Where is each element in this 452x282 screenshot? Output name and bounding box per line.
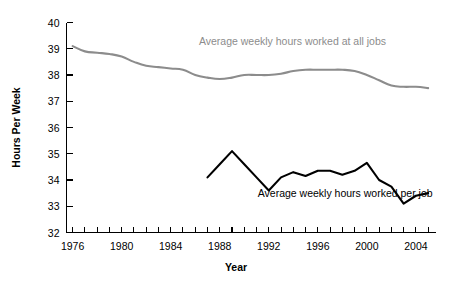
y-tick-label: 32 [48,227,60,239]
x-tick-label: 1996 [306,240,330,252]
x-tick-label: 1980 [110,240,134,252]
x-tick-label: 2004 [404,240,428,252]
series-label-all-jobs: Average weekly hours worked at all jobs [199,35,386,47]
y-axis-title: Hours Per Week [10,87,22,167]
y-tick-label: 34 [48,174,60,186]
x-axis-ticks [73,227,429,233]
chart-container: 323334353637383940 197619801984198819921… [0,0,452,282]
x-tick-label: 1984 [159,240,183,252]
x-tick-label: 1988 [208,240,232,252]
y-tick-label: 35 [48,148,60,160]
y-tick-label: 36 [48,122,60,134]
x-axis-tick-labels: 19761980198419881992199620002004 [61,240,428,252]
y-axis-ticks [67,23,73,233]
y-tick-label: 33 [48,200,60,212]
x-tick-label: 1976 [61,240,85,252]
y-tick-label: 40 [48,17,60,29]
y-axis-group: 323334353637383940 [48,17,73,239]
y-tick-label: 38 [48,69,60,81]
x-axis-title: Year [225,261,247,273]
x-tick-label: 2000 [355,240,379,252]
series-line-all-jobs [73,46,429,88]
y-axis-tick-labels: 323334353637383940 [48,17,60,239]
y-tick-label: 39 [48,43,60,55]
x-axis-group: 19761980198419881992199620002004 [61,227,436,252]
y-tick-label: 37 [48,95,60,107]
x-tick-label: 1992 [257,240,281,252]
series-group [73,46,429,204]
line-chart: 323334353637383940 197619801984198819921… [0,0,452,282]
series-label-per-job: Average weekly hours worked per job [258,187,433,199]
